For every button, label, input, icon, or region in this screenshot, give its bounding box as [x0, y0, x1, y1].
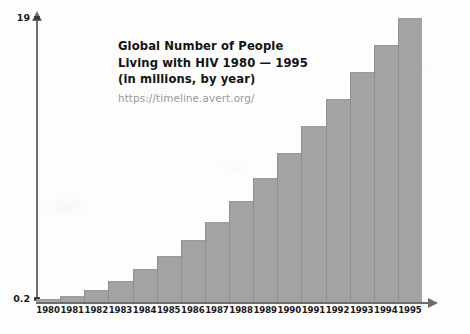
x-axis-tick-label: 1988 [229, 305, 253, 315]
bar [133, 269, 157, 302]
x-axis-tick-label: 1995 [398, 305, 422, 315]
bar [205, 222, 229, 303]
x-axis-tick-label: 1980 [36, 305, 60, 315]
x-axis-tick-label: 1984 [133, 305, 157, 315]
x-axis-tick-label: 1983 [108, 305, 132, 315]
chart-subtitle: (in millions, by year) [118, 71, 348, 88]
x-axis-tick-label: 1982 [84, 305, 108, 315]
bar-chart: 19 0.2 198019811982198319841985198619871… [0, 0, 470, 334]
bar-cell [60, 18, 84, 302]
x-axis-tick-label: 1994 [374, 305, 398, 315]
bar [398, 18, 422, 302]
bar [108, 281, 132, 302]
bar-cell [350, 18, 374, 302]
x-axis-tick-label: 1987 [205, 305, 229, 315]
x-axis-tick-label: 1990 [277, 305, 301, 315]
bar-cell [374, 18, 398, 302]
bar [60, 296, 84, 302]
bar [253, 178, 277, 302]
bar [374, 45, 398, 302]
chart-title-line-2: Living with HIV 1980 — 1995 [118, 55, 348, 72]
x-axis-tick-label: 1993 [350, 305, 374, 315]
bar-cell [36, 18, 60, 302]
bar [350, 72, 374, 303]
bar [301, 126, 325, 303]
bar [157, 256, 181, 302]
chart-title-line-1: Global Number of People [118, 38, 348, 55]
x-axis-line [36, 302, 429, 304]
bar [181, 240, 205, 303]
x-axis-tick-label: 1989 [253, 305, 277, 315]
bar-cell [84, 18, 108, 302]
bar [277, 153, 301, 303]
x-axis-tick-label: 1992 [326, 305, 350, 315]
y-tick-label-top: 19 [2, 12, 30, 23]
x-axis-tick-label: 1985 [157, 305, 181, 315]
x-axis-tick-label: 1981 [60, 305, 84, 315]
bar [84, 290, 108, 302]
bar [229, 201, 253, 303]
x-axis-tick-label: 1991 [301, 305, 325, 315]
bar [36, 299, 60, 302]
bar [326, 99, 350, 303]
x-axis-tick-label: 1986 [181, 305, 205, 315]
source-url-label: https://timeline.avert.org/ [118, 90, 348, 106]
x-axis-arrow-icon [428, 298, 438, 308]
chart-title-block: Global Number of People Living with HIV … [118, 38, 348, 106]
bar-cell [398, 18, 422, 302]
y-tick-label-bottom: 0.2 [2, 293, 30, 304]
x-axis-tick-labels: 1980198119821983198419851986198719881989… [36, 305, 422, 315]
